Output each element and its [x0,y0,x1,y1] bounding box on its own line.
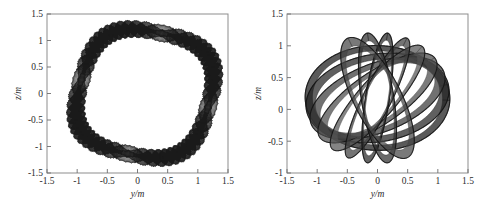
y-tick-label: -0.5 [28,115,43,125]
trajectory-group [66,20,223,167]
x-tick-label: -0.5 [340,176,355,186]
y-axis-label: z/m [13,87,23,101]
x-tick-label: 1.5 [462,176,474,186]
y-axis-label: z/m [253,87,263,101]
y-tick-label: -0.5 [268,137,283,147]
y-tick-label: 1 [278,41,283,51]
x-tick-label: -0.5 [100,176,115,186]
chart-panel-left: -1.5-1-0.500.511.5-1.5-1-0.500.511.5y/mz… [0,0,239,214]
x-axis-label: y/m [370,189,385,199]
x-tick-label: 0.5 [402,176,414,186]
y-tick-label: -1.5 [28,168,43,178]
x-tick-label: 0 [135,176,140,186]
y-tick-label: 1 [38,36,43,46]
y-tick-label: -1 [35,142,43,152]
x-tick-label: 0 [375,176,380,186]
x-tick-label: -1 [313,176,321,186]
y-tick-label: 1.5 [271,9,283,19]
y-tick-label: -1 [275,168,283,178]
trajectory-plot-left: -1.5-1-0.500.511.5-1.5-1-0.500.511.5y/mz… [0,0,239,214]
trajectory-plot-right: -1.5-1-0.500.511.5-1-0.500.511.5y/mz/m [239,0,478,214]
trajectory-group [305,33,450,163]
x-tick-label: -1 [73,176,81,186]
y-tick-label: 0.5 [271,73,283,83]
figure-container: -1.5-1-0.500.511.5-1.5-1-0.500.511.5y/mz… [0,0,478,214]
y-tick-label: 1.5 [31,9,43,19]
x-tick-label: 1 [195,176,200,186]
x-axis-label: y/m [130,189,145,199]
y-tick-label: 0.5 [31,62,43,72]
x-tick-label: 1.5 [222,176,234,186]
y-tick-label: 0 [278,105,283,115]
y-tick-label: 0 [38,89,43,99]
x-tick-label: 0.5 [162,176,174,186]
chart-panel-right: -1.5-1-0.500.511.5-1-0.500.511.5y/mz/m [239,0,478,214]
x-tick-label: 1 [435,176,440,186]
